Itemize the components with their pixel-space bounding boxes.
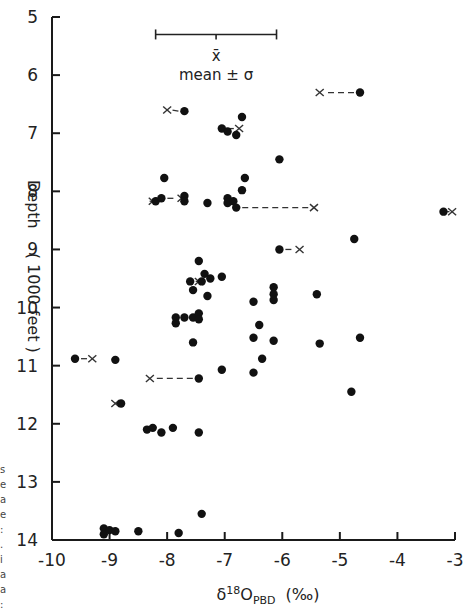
margin-glyph: : — [0, 597, 10, 612]
data-point — [238, 113, 246, 121]
data-point — [356, 334, 364, 342]
data-point — [269, 336, 277, 344]
x-marker-icon — [296, 246, 304, 253]
margin-glyph: a — [0, 492, 10, 507]
y-tick-label: 14 — [16, 530, 38, 550]
x-marker-icon — [310, 204, 318, 211]
data-point — [347, 388, 355, 396]
data-point — [316, 339, 324, 347]
delta-symbol: δ — [217, 585, 227, 604]
margin-glyph: e — [0, 477, 10, 492]
data-point — [111, 356, 119, 364]
data-point — [223, 127, 231, 135]
data-point — [232, 203, 240, 211]
data-point — [203, 292, 211, 300]
unit-permil: (‰) — [286, 585, 320, 604]
margin-glyph: e — [0, 507, 10, 522]
margin-glyph: a — [0, 582, 10, 597]
x-tick-labels: -10-9-8-7-6-5-4-3 — [38, 550, 463, 570]
data-point — [197, 510, 205, 518]
data-point — [180, 197, 188, 205]
data-point — [174, 529, 182, 537]
data-point — [180, 313, 188, 321]
data-point — [218, 366, 226, 374]
data-point — [180, 107, 188, 115]
margin-glyph: . — [0, 537, 10, 552]
margin-text-fragment: seae:.iaa: — [0, 462, 10, 612]
axes — [52, 17, 455, 540]
data-point — [350, 235, 358, 243]
x-marker-icon — [316, 89, 324, 96]
data-point — [269, 296, 277, 304]
data-point — [249, 298, 257, 306]
x-tick-label: -4 — [389, 550, 406, 570]
x-marker-icon — [146, 375, 154, 382]
legend-label: mean ± σ — [179, 66, 254, 84]
x-axis-title: δ18OPBD(‰) — [217, 584, 320, 607]
data-point — [195, 257, 203, 265]
subscript-pbd: PBD — [253, 594, 276, 607]
x-tick-label: -8 — [159, 550, 176, 570]
data-point — [189, 338, 197, 346]
x-tick-label: -6 — [274, 550, 291, 570]
data-point — [197, 277, 205, 285]
margin-glyph: : — [0, 522, 10, 537]
data-point — [439, 207, 447, 215]
x-tick-label: -9 — [101, 550, 118, 570]
data-point — [203, 199, 211, 207]
svg-text:Depth( 1000 feet ): Depth( 1000 feet ) — [24, 180, 43, 353]
x-marker-icon — [88, 355, 96, 362]
data-point — [313, 290, 321, 298]
data-point — [157, 428, 165, 436]
margin-glyph: s — [0, 462, 10, 477]
data-point — [249, 368, 257, 376]
data-point — [206, 274, 214, 282]
data-point — [218, 273, 226, 281]
data-point — [169, 424, 177, 432]
oxygen-symbol: O — [240, 585, 253, 604]
svg-text:δ18OPBD(‰): δ18OPBD(‰) — [217, 584, 320, 607]
legend-mean-sigma: x̄ mean ± σ — [156, 29, 277, 84]
data-point — [255, 321, 263, 329]
data-point — [157, 194, 165, 202]
x-tick-label: -7 — [216, 550, 233, 570]
data-point — [356, 88, 364, 96]
x-tick-label: -5 — [331, 550, 348, 570]
y-title-unit: ( 1000 feet ) — [24, 253, 43, 353]
x-tick-label: -3 — [447, 550, 464, 570]
data-point — [160, 174, 168, 182]
y-tick-label: 5 — [27, 7, 38, 27]
legend-mean-symbol: x̄ — [212, 47, 221, 65]
margin-glyph: i — [0, 552, 10, 567]
data-point — [232, 131, 240, 139]
x-markers — [88, 89, 456, 407]
data-point — [258, 354, 266, 362]
y-axis-title: Depth( 1000 feet ) — [24, 180, 43, 353]
data-point — [186, 277, 194, 285]
y-title-word: Depth — [24, 180, 43, 229]
data-point — [238, 186, 246, 194]
data-point — [134, 527, 142, 535]
y-tick-label: 6 — [27, 65, 38, 85]
x-marker-icon — [163, 106, 171, 113]
data-point — [241, 174, 249, 182]
data-point — [249, 334, 257, 342]
superscript-18: 18 — [226, 584, 240, 597]
margin-glyph: a — [0, 567, 10, 582]
data-point — [195, 315, 203, 323]
data-point — [275, 245, 283, 253]
data-point — [71, 354, 79, 362]
y-tick-label: 13 — [16, 472, 38, 492]
data-point — [189, 286, 197, 294]
y-tick-label: 7 — [27, 123, 38, 143]
data-point — [275, 155, 283, 163]
data-point — [149, 424, 157, 432]
y-tick-label: 11 — [16, 356, 38, 376]
data-point — [172, 319, 180, 327]
data-points — [71, 88, 448, 538]
data-point — [111, 527, 119, 535]
y-tick-label: 12 — [16, 414, 38, 434]
data-point — [117, 399, 125, 407]
scatter-chart: 567891011121314 -10-9-8-7-6-5-4-3 x̄ mea… — [0, 0, 474, 615]
dashed-link — [172, 110, 178, 111]
